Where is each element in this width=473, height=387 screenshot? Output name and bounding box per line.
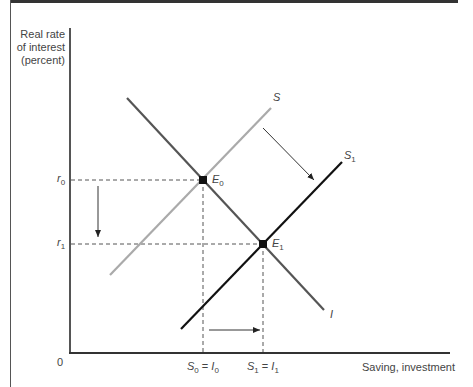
equilibrium-point-E1 (259, 240, 267, 248)
x-axis-label: Saving, investment (362, 361, 455, 374)
y-label-line-1: Real rate (17, 28, 65, 41)
label-S: S (273, 91, 280, 104)
saving-curve-S (110, 108, 271, 275)
diagram-canvas (0, 0, 473, 387)
label-S1: S1 (344, 149, 356, 166)
y-label-line-2: of interest (17, 41, 65, 54)
tick-S1-I1: S1 = I1 (247, 360, 279, 377)
investment-curve-I (127, 98, 324, 310)
label-I: I (330, 308, 333, 321)
top-border (10, 0, 458, 3)
origin-label: 0 (57, 356, 63, 369)
tick-r1: r1 (57, 236, 65, 253)
y-label-line-3: (percent) (17, 54, 65, 67)
tick-r0: r0 (57, 172, 65, 189)
label-E1: E1 (272, 237, 284, 254)
tick-S0-I0: S0 = I0 (187, 360, 219, 377)
equilibrium-point-E0 (199, 176, 207, 184)
label-E0: E0 (212, 173, 224, 190)
shift-arrow-icon (263, 128, 314, 180)
y-axis-label: Real rate of interest (percent) (17, 28, 65, 67)
